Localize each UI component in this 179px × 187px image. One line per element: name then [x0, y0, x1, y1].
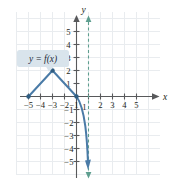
graph-canvas: −5 −4 −3 −2 −1 1 2 3 4 5 5 4 3 2 1 −1 −2… [0, 0, 179, 187]
x-tick-label: −3 [48, 100, 57, 110]
callout-label: y = f(x) [28, 54, 57, 65]
x-axis-arrow [152, 93, 160, 99]
y-tick-label: −2 [64, 118, 73, 128]
x-tick-label: −5 [24, 100, 33, 110]
y-tick-label: −5 [64, 157, 73, 167]
y-tick-label: −3 [64, 131, 73, 141]
y-tick-label: 2 [66, 66, 70, 76]
y-tick-label: 4 [66, 40, 71, 50]
endpoint-dot-left [26, 94, 30, 98]
x-tick-label: 3 [110, 100, 114, 110]
x-tick-label: −4 [36, 100, 46, 110]
x-tick-label: 2 [98, 100, 102, 110]
x-axis-label: x [162, 92, 168, 102]
y-tick-label: −1 [64, 105, 73, 115]
function-graph-figure: −5 −4 −3 −2 −1 1 2 3 4 5 5 4 3 2 1 −1 −2… [0, 0, 179, 187]
y-tick-label: 5 [66, 27, 70, 37]
curve-down-arrow [85, 160, 91, 170]
function-callout: y = f(x) [17, 50, 69, 72]
function-curve [29, 71, 88, 162]
x-tick-label: 4 [122, 100, 127, 110]
y-axis-label: y [80, 5, 86, 15]
x-tick-label: 5 [134, 100, 138, 110]
y-tick-label: −4 [64, 144, 74, 154]
endpoint-dot-origin [74, 94, 78, 98]
